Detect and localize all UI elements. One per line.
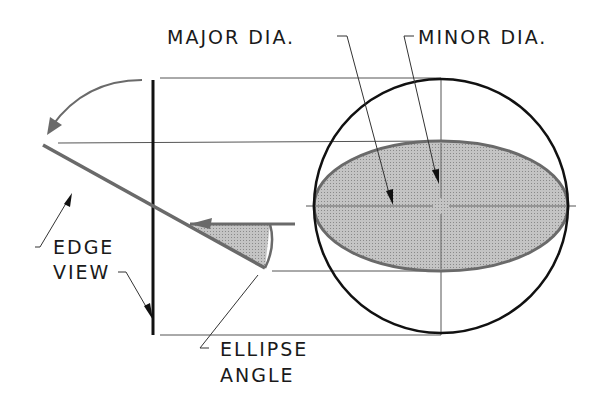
minor-dia-label: MINOR DIA.	[418, 26, 547, 48]
major-dia-label: MAJOR DIA.	[167, 26, 295, 48]
ellipse-angle-label-line1: ELLIPSE	[220, 338, 308, 360]
rotation-arc	[52, 80, 142, 126]
ellipse-angle-shading	[190, 224, 270, 268]
edge-view-label-line2: VIEW	[53, 261, 110, 283]
edge-view-label-line1: EDGE	[53, 236, 114, 258]
ellipse-angle-label-line2: ANGLE	[220, 364, 295, 386]
rotation-arrow-icon	[47, 117, 62, 135]
